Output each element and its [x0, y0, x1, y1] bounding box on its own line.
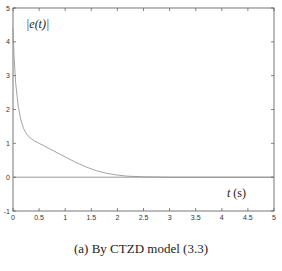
chart-plot: 00.511.522.533.544.55-1012345 |e(t)| t (…	[0, 0, 282, 271]
x-axis-label-unit: (s)	[230, 186, 246, 200]
y-tick-label: 0	[6, 174, 10, 181]
error-curve	[13, 28, 274, 177]
x-tick-label: 0	[11, 214, 15, 221]
figure-caption: (a) By CTZD model (3.3)	[0, 241, 282, 257]
x-tick-label: 2	[115, 214, 119, 221]
x-tick-label: 2.5	[139, 214, 149, 221]
y-tick-label: 2	[6, 106, 10, 113]
plot-area	[13, 8, 274, 211]
x-tick-label: 3	[168, 214, 172, 221]
x-axis-label: t (s)	[227, 186, 246, 200]
x-tick-label: 4.5	[243, 214, 253, 221]
x-tick-label: 3.5	[191, 214, 201, 221]
y-tick-label: 4	[6, 38, 10, 45]
x-tick-label: 1.5	[86, 214, 96, 221]
x-tick-label: 0.5	[34, 214, 44, 221]
y-tick-label: 5	[6, 5, 10, 12]
y-tick-label: 3	[6, 72, 10, 79]
y-tick-label: -1	[4, 208, 10, 215]
y-tick-label: 1	[6, 140, 10, 147]
axes-frame	[13, 8, 274, 211]
y-axis-label: |e(t)|	[26, 17, 49, 31]
x-tick-label: 1	[63, 214, 67, 221]
x-tick-label: 5	[272, 214, 276, 221]
x-tick-label: 4	[220, 214, 224, 221]
